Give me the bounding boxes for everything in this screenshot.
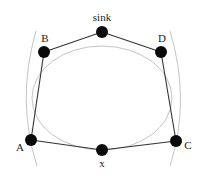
nodes: [25, 26, 182, 156]
node-label-A: A: [16, 141, 24, 153]
edge-C-D: [161, 52, 176, 141]
node-x: [96, 144, 108, 156]
node-label-x: x: [99, 157, 105, 169]
node-C: [170, 135, 182, 147]
node-D: [155, 46, 167, 58]
node-label-sink: sink: [93, 11, 112, 23]
node-B: [38, 46, 50, 58]
node-label-C: C: [184, 139, 191, 151]
edge-B-A: [31, 52, 44, 140]
edge-A-x: [31, 140, 102, 150]
inner-range-ellipse: [32, 46, 172, 150]
edge-D-sink: [102, 32, 161, 52]
edge-sink-B: [44, 32, 102, 52]
network-diagram: sinkBDAxC: [0, 0, 202, 178]
node-A: [25, 134, 37, 146]
node-label-B: B: [41, 32, 48, 44]
node-sink: [96, 26, 108, 38]
node-label-D: D: [158, 32, 166, 44]
